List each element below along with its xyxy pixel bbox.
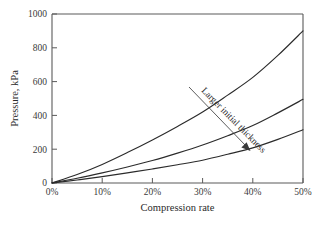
annotation-label: Larger initial thickness — [200, 85, 269, 155]
series-line-2 — [52, 130, 303, 183]
series-line-1 — [52, 99, 303, 183]
axis-frame — [52, 14, 303, 183]
data-series-group — [52, 31, 303, 183]
series-line-0 — [52, 31, 303, 183]
chart-plot-area: 0 200 400 600 800 1000 0% 10% 20% 30% 40… — [0, 0, 325, 225]
y-tick-label-800: 800 — [33, 43, 48, 53]
x-tick-label-40: 40% — [244, 187, 262, 197]
y-tick-label-400: 400 — [33, 111, 48, 121]
x-tick-label-20: 20% — [144, 187, 162, 197]
x-tick-label-10: 10% — [93, 187, 111, 197]
chart-figure: 0 200 400 600 800 1000 0% 10% 20% 30% 40… — [0, 0, 325, 225]
x-axis-tick-labels: 0% 10% 20% 30% 40% 50% — [46, 187, 312, 197]
x-axis-title: Compression rate — [141, 202, 215, 213]
y-tick-label-200: 200 — [33, 145, 48, 155]
y-axis-title: Pressure, kPa — [9, 70, 20, 127]
y-axis-tick-labels: 0 200 400 600 800 1000 — [28, 9, 47, 188]
x-tick-label-50: 50% — [294, 187, 312, 197]
y-tick-label-600: 600 — [33, 77, 48, 87]
annotation-arrow — [189, 87, 251, 151]
y-axis-ticks — [52, 14, 57, 183]
y-tick-label-1000: 1000 — [28, 9, 47, 19]
x-tick-label-0: 0% — [46, 187, 59, 197]
x-tick-label-30: 30% — [194, 187, 212, 197]
